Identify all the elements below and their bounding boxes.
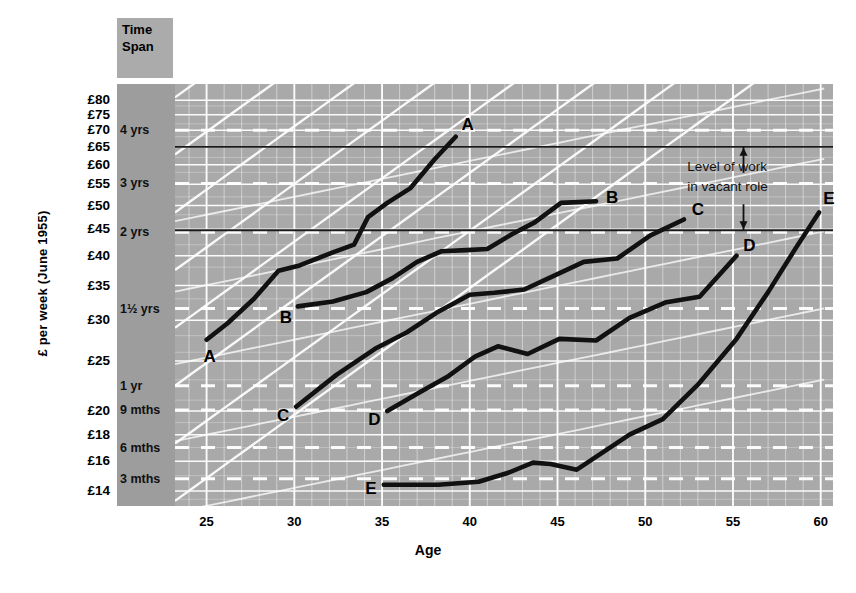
progression-guide-line: [175, 84, 719, 444]
time-span-label: 6 mths: [120, 443, 160, 453]
progression-guide-line: [175, 84, 245, 97]
progression-guide-line-shallow: [175, 231, 824, 364]
x-tick-label: 50: [638, 514, 652, 529]
y-tick-label: £20: [64, 406, 110, 416]
x-tick-label: 55: [726, 514, 740, 529]
y-tick-label: £50: [64, 201, 110, 211]
annotation-line2: in vacant role: [687, 177, 767, 197]
x-tick-label: 45: [550, 514, 564, 529]
plot-area: 4 yrs3 yrs2 yrs1½ yrs1 yr9 mths6 mths3 m…: [117, 84, 833, 506]
x-tick-label: 35: [375, 514, 389, 529]
y-tick-label: £80: [64, 95, 110, 105]
y-tick-label: £18: [64, 430, 110, 440]
time-span-band: 4 yrs3 yrs2 yrs1½ yrs1 yr9 mths6 mths3 m…: [117, 84, 175, 506]
time-span-header-line2: Span: [122, 38, 173, 55]
progression-guide-line-shallow: [175, 89, 824, 222]
time-span-label: 2 yrs: [120, 227, 149, 237]
time-span-label: 3 mths: [120, 474, 160, 484]
x-tick-label: 30: [287, 514, 301, 529]
y-tick-label: £75: [64, 110, 110, 120]
time-span-label: 3 yrs: [120, 178, 149, 188]
y-tick-label: £45: [64, 224, 110, 234]
y-tick-label: £60: [64, 160, 110, 170]
time-span-label: 1 yr: [120, 381, 142, 391]
curve-label-C-end: C: [692, 200, 704, 220]
x-tick-label: 40: [463, 514, 477, 529]
curve-label-D-start: D: [368, 410, 380, 430]
annotation-line1: Level of work: [687, 157, 767, 177]
time-span-header: Time Span: [117, 18, 173, 78]
x-tick-label: 60: [813, 514, 827, 529]
curve-label-B-end: B: [606, 188, 618, 208]
curve-label-E-end: E: [823, 189, 834, 209]
curve-label-A-end: A: [462, 115, 474, 135]
chart-svg: [175, 84, 833, 506]
curve-label-C-start: C: [277, 406, 289, 426]
curve-label-B-start: B: [280, 308, 292, 328]
curve-label-E-start: E: [365, 479, 376, 499]
chart-grid: [175, 84, 833, 506]
y-tick-label: £40: [64, 251, 110, 261]
y-tick-label: £55: [64, 179, 110, 189]
annotation-arrow-up-head: [740, 148, 748, 156]
time-span-label: 1½ yrs: [120, 304, 160, 314]
time-span-label: 9 mths: [120, 405, 160, 415]
y-tick-label: £25: [64, 356, 110, 366]
curve-label-A-start: A: [203, 347, 215, 367]
x-axis-title: Age: [0, 542, 856, 558]
time-span-label: 4 yrs: [120, 125, 149, 135]
y-tick-label: £35: [64, 281, 110, 291]
y-tick-label: £14: [64, 486, 110, 496]
annotation-arrow-down-head: [740, 221, 748, 229]
y-tick-label: £16: [64, 456, 110, 466]
curve-label-D-end: D: [743, 236, 755, 256]
x-tick-label: 25: [199, 514, 213, 529]
progression-guide-line-shallow: [175, 308, 824, 441]
progression-guide-line: [175, 84, 473, 270]
y-tick-label: £70: [64, 125, 110, 135]
level-of-work-annotation: Level of work in vacant role: [687, 157, 767, 197]
y-tick-label: £30: [64, 315, 110, 325]
progression-guide-line-shallow: [175, 380, 824, 506]
y-tick-label: £65: [64, 142, 110, 152]
y-axis-tick-labels: £80£75£70£65£60£55£50£45£40£35£30£25£20£…: [60, 0, 110, 593]
time-span-header-line1: Time: [122, 21, 173, 38]
chart-figure: £ per week (June 1955) £80£75£70£65£60£5…: [0, 0, 856, 593]
curve-B: [298, 201, 596, 306]
y-axis-title: £ per week (June 1955): [35, 134, 50, 434]
progression-guide-line: [175, 84, 403, 213]
